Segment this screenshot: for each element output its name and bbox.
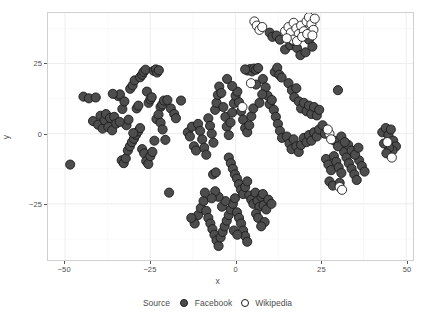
legend-label-wikipedia: Wikipedia	[255, 298, 292, 308]
data-point	[141, 65, 150, 74]
data-point	[200, 188, 209, 197]
data-point	[383, 138, 392, 147]
y-tick-label: 0	[38, 129, 42, 138]
data-point	[214, 241, 223, 250]
data-point	[154, 66, 163, 75]
data-point	[226, 118, 235, 127]
y-tick-mark	[44, 204, 47, 205]
data-point	[187, 213, 196, 222]
legend-title: Source	[143, 298, 170, 308]
data-point	[209, 138, 218, 147]
data-point	[340, 138, 349, 147]
x-tick-mark	[407, 261, 408, 264]
data-point	[233, 230, 242, 239]
data-point	[202, 150, 211, 159]
x-tick-mark	[321, 261, 322, 264]
x-tick-mark	[150, 261, 151, 264]
data-point	[154, 110, 163, 119]
data-point	[243, 237, 252, 246]
legend: Source Facebook Wikipedia	[0, 296, 435, 309]
data-point	[158, 125, 167, 134]
data-points-layer	[48, 13, 413, 260]
data-point	[134, 101, 143, 110]
data-point	[219, 102, 228, 111]
data-point	[147, 93, 156, 102]
x-tick-label: 50	[403, 265, 412, 274]
data-point	[258, 22, 267, 31]
data-point	[245, 121, 254, 130]
x-tick-label: 25	[317, 265, 326, 274]
data-point	[148, 147, 157, 156]
y-tick-mark	[44, 63, 47, 64]
data-point	[224, 131, 233, 140]
data-point	[241, 65, 250, 74]
data-point	[211, 168, 220, 177]
data-point	[120, 97, 129, 106]
data-point	[292, 84, 301, 93]
data-point	[108, 89, 117, 98]
data-point	[257, 222, 266, 231]
data-point	[267, 199, 276, 208]
data-point	[124, 115, 133, 124]
data-point	[333, 86, 342, 95]
x-tick-mark	[64, 261, 65, 264]
data-point	[243, 177, 252, 186]
data-point	[176, 96, 185, 105]
data-point	[352, 175, 361, 184]
legend-entry-facebook[interactable]: Facebook	[178, 296, 232, 309]
data-point	[115, 117, 124, 126]
data-point	[315, 105, 324, 114]
data-point	[308, 42, 317, 51]
data-point	[337, 185, 346, 194]
data-point	[66, 160, 75, 169]
legend-key-wikipedia	[238, 296, 251, 309]
data-point	[308, 31, 317, 40]
data-point	[310, 14, 319, 23]
data-point	[196, 126, 205, 135]
data-point	[258, 90, 267, 99]
data-point	[165, 188, 174, 197]
data-point	[282, 34, 291, 43]
data-point	[327, 135, 336, 144]
legend-label-facebook: Facebook	[195, 298, 232, 308]
scatter-plot-figure: x y Source Facebook Wikipedia −50−250255…	[0, 0, 435, 331]
data-point	[161, 135, 170, 144]
data-point	[163, 95, 172, 104]
x-tick-mark	[236, 261, 237, 264]
data-point	[171, 114, 180, 123]
filled-circle-icon	[180, 299, 188, 307]
plot-panel	[47, 12, 414, 261]
data-point	[207, 129, 216, 138]
y-tick-mark	[44, 134, 47, 135]
data-point	[254, 63, 263, 72]
legend-key-facebook	[178, 296, 191, 309]
data-point	[354, 143, 363, 152]
data-point	[323, 125, 332, 134]
data-point	[238, 102, 247, 111]
x-tick-label: −25	[143, 265, 156, 274]
plot-area	[47, 12, 414, 261]
data-point	[185, 132, 194, 141]
data-point	[228, 81, 237, 90]
data-point	[337, 168, 346, 177]
open-circle-icon	[241, 299, 249, 307]
data-point	[230, 194, 239, 203]
data-point	[91, 93, 100, 102]
y-tick-label: −25	[29, 200, 42, 209]
legend-entry-wikipedia[interactable]: Wikipedia	[238, 296, 292, 309]
data-point	[387, 153, 396, 162]
data-point	[267, 95, 276, 104]
y-axis-label: y	[1, 135, 11, 139]
data-point	[360, 167, 369, 176]
data-point	[255, 98, 264, 107]
x-axis-label: x	[0, 276, 435, 286]
data-point	[129, 129, 138, 138]
data-point	[386, 125, 395, 134]
data-point	[228, 108, 237, 117]
x-tick-label: −50	[58, 265, 71, 274]
data-point	[217, 88, 226, 97]
data-point	[246, 79, 255, 88]
data-point	[198, 135, 207, 144]
x-tick-label: 0	[234, 265, 238, 274]
y-tick-label: 25	[33, 58, 42, 67]
